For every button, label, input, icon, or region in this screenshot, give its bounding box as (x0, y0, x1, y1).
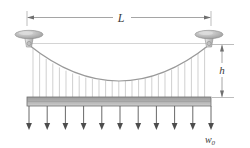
main-cable (29, 45, 209, 81)
left-tower (15, 30, 43, 47)
hanger-group (33, 48, 205, 98)
load-arrowhead-icon (190, 123, 196, 130)
load-arrowhead-icon (117, 123, 123, 130)
left-tower-cap-highlight (19, 31, 33, 35)
span-arrow-left-icon (27, 15, 34, 19)
load-arrowhead-icon (135, 123, 141, 130)
sag-arrow-bottom-icon (220, 91, 224, 98)
load-arrowhead-icon (154, 123, 160, 130)
load-arrowhead-icon (44, 123, 50, 130)
bridge-deck (27, 97, 211, 106)
sag-dimension-group: h (212, 45, 234, 98)
load-arrowhead-icon (26, 123, 32, 130)
load-arrowhead-icon (81, 123, 87, 130)
load-arrowhead-icon (172, 123, 178, 130)
load-arrowhead-icon (63, 123, 69, 130)
sag-arrow-top-icon (220, 45, 224, 52)
load-label: w0 (205, 134, 216, 147)
left-tower-saddle (27, 41, 31, 45)
suspension-bridge-diagram: L (0, 0, 250, 148)
span-dimension-group: L (27, 10, 211, 26)
load-arrowhead-icon (208, 123, 214, 130)
distributed-load-group: w0 (26, 106, 215, 147)
load-arrowhead-icon (99, 123, 105, 130)
right-tower-cap-highlight (199, 31, 213, 35)
sag-dimension-label: h (219, 64, 225, 76)
span-dimension-label: L (117, 11, 125, 25)
right-tower-saddle (207, 41, 211, 45)
span-arrow-right-icon (204, 15, 211, 19)
load-label-subscript: 0 (212, 139, 216, 147)
